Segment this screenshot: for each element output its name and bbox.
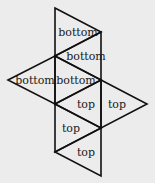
face-label: top	[108, 98, 126, 111]
face-label: bottom	[15, 74, 55, 87]
net-diagram: bottombottombottombottomtoptoptoptop	[0, 0, 155, 183]
face-label: top	[62, 122, 80, 135]
face-label: bottom	[66, 50, 106, 63]
face-label: top	[77, 98, 95, 111]
face-label: top	[77, 146, 95, 159]
